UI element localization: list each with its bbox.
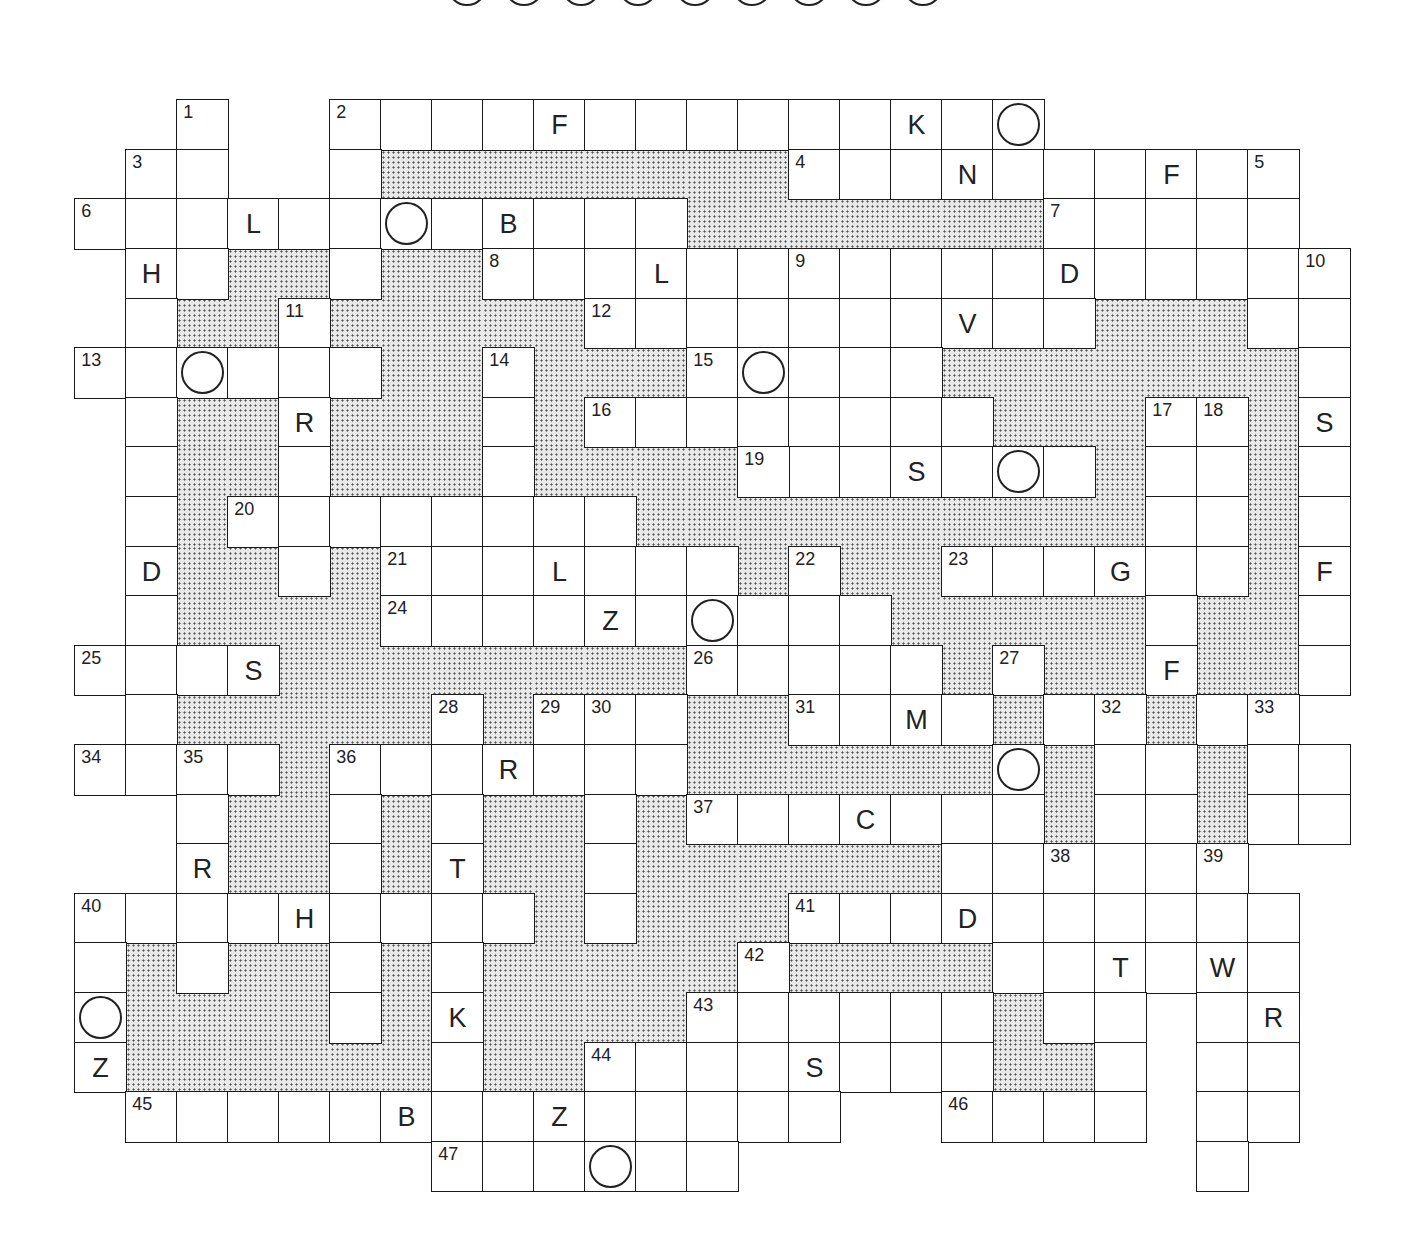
grid-cell[interactable] [788,595,841,647]
grid-cell[interactable]: F [1298,546,1351,598]
grid-cell[interactable]: N [941,149,994,201]
grid-cell[interactable] [278,446,331,498]
grid-cell[interactable] [1298,496,1351,548]
grid-cell[interactable] [533,198,586,250]
grid-cell[interactable] [1094,843,1147,895]
grid-cell[interactable]: 13 [74,347,127,399]
grid-cell[interactable] [1145,942,1198,994]
grid-cell[interactable] [278,347,331,399]
grid-cell[interactable]: 15 [686,347,739,399]
grid-cell[interactable] [1094,992,1147,1044]
grid-cell[interactable]: S [1298,397,1351,449]
grid-cell[interactable] [788,397,841,449]
grid-cell[interactable] [533,248,586,300]
grid-cell[interactable]: G [1094,546,1147,598]
grid-cell[interactable] [890,149,943,201]
grid-cell[interactable] [1043,546,1096,598]
grid-cell[interactable] [1196,496,1249,548]
grid-cell[interactable]: 9 [788,248,841,300]
grid-cell[interactable]: 18 [1196,397,1249,449]
grid-cell[interactable]: Z [584,595,637,647]
grid-cell[interactable]: K [431,992,484,1044]
grid-cell[interactable] [278,546,331,598]
grid-cell[interactable]: V [941,298,994,350]
grid-cell[interactable]: F [1145,645,1198,697]
grid-cell[interactable] [431,1042,484,1094]
grid-cell[interactable] [992,843,1045,895]
grid-cell[interactable] [431,546,484,598]
grid-cell[interactable] [1145,794,1198,846]
grid-cell[interactable] [1247,942,1300,994]
grid-cell[interactable]: 20 [227,496,280,548]
grid-cell[interactable] [1298,744,1351,796]
grid-cell[interactable] [1145,198,1198,250]
grid-cell[interactable]: D [941,893,994,945]
grid-cell[interactable] [1247,794,1300,846]
grid-cell[interactable] [686,397,739,449]
grid-cell[interactable] [788,298,841,350]
grid-cell[interactable]: T [1094,942,1147,994]
grid-cell[interactable] [329,496,382,548]
grid-cell[interactable] [329,942,382,994]
grid-cell[interactable] [125,198,178,250]
grid-cell[interactable] [992,446,1045,498]
grid-cell[interactable] [74,942,127,994]
grid-cell[interactable]: 44 [584,1042,637,1094]
grid-cell[interactable] [533,496,586,548]
grid-cell[interactable] [1094,794,1147,846]
grid-cell[interactable]: 35 [176,744,229,796]
grid-cell[interactable]: 46 [941,1091,994,1143]
grid-cell[interactable] [329,893,382,945]
grid-cell[interactable] [533,744,586,796]
grid-cell[interactable] [1145,496,1198,548]
grid-cell[interactable]: F [533,99,586,151]
grid-cell[interactable] [839,992,892,1044]
grid-cell[interactable] [176,198,229,250]
answer-circle[interactable] [903,0,943,6]
grid-cell[interactable] [1298,298,1351,350]
grid-cell[interactable]: 24 [380,595,433,647]
grid-cell[interactable] [1145,595,1198,647]
grid-cell[interactable] [482,99,535,151]
grid-cell[interactable]: 33 [1247,694,1300,746]
grid-cell[interactable] [1094,248,1147,300]
grid-cell[interactable] [737,1042,790,1094]
grid-cell[interactable] [1145,546,1198,598]
grid-cell[interactable] [890,298,943,350]
grid-cell[interactable] [278,198,331,250]
grid-cell[interactable] [839,149,892,201]
grid-cell[interactable]: L [635,248,688,300]
grid-cell[interactable]: 39 [1196,843,1249,895]
grid-cell[interactable] [431,1091,484,1143]
grid-cell[interactable] [125,744,178,796]
grid-cell[interactable] [482,1091,535,1143]
grid-cell[interactable] [890,397,943,449]
grid-cell[interactable] [839,347,892,399]
grid-cell[interactable] [737,645,790,697]
grid-cell[interactable] [992,546,1045,598]
grid-cell[interactable] [380,99,433,151]
grid-cell[interactable] [1196,1091,1249,1143]
grid-cell[interactable] [1247,1091,1300,1143]
grid-cell[interactable] [1247,298,1300,350]
grid-cell[interactable] [431,794,484,846]
grid-cell[interactable] [74,992,127,1044]
grid-cell[interactable]: R [1247,992,1300,1044]
grid-cell[interactable] [1196,198,1249,250]
grid-cell[interactable] [839,694,892,746]
grid-cell[interactable] [890,1042,943,1094]
grid-cell[interactable] [125,645,178,697]
grid-cell[interactable] [941,992,994,1044]
grid-cell[interactable] [1196,694,1249,746]
grid-cell[interactable] [788,1091,841,1143]
grid-cell[interactable] [482,595,535,647]
grid-cell[interactable]: H [278,893,331,945]
grid-cell[interactable] [125,595,178,647]
grid-cell[interactable]: L [227,198,280,250]
grid-cell[interactable] [584,496,637,548]
grid-cell[interactable]: 45 [125,1091,178,1143]
grid-cell[interactable]: R [176,843,229,895]
grid-cell[interactable] [686,1042,739,1094]
grid-cell[interactable] [1043,298,1096,350]
grid-cell[interactable] [737,99,790,151]
